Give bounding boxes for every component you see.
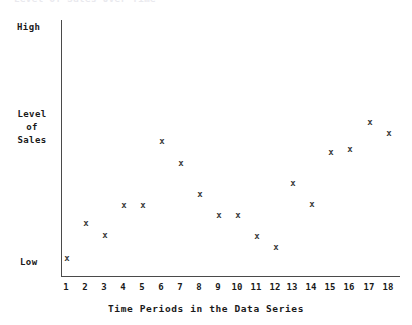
data-point-marker: x (347, 145, 352, 154)
data-point-marker: x (328, 148, 333, 157)
data-point-marker: x (102, 231, 107, 240)
x-axis-tick-label: 18 (383, 282, 394, 293)
x-axis-tick-label: 6 (158, 282, 163, 293)
x-axis-tick-label: 9 (215, 282, 220, 293)
x-axis-tick-label: 1 (63, 282, 68, 293)
x-axis-tick-label: 8 (196, 282, 201, 293)
y-axis-high-label: High (17, 21, 40, 33)
y-axis-low-label: Low (20, 256, 37, 268)
data-point-marker: x (121, 201, 126, 210)
data-point-marker: x (197, 190, 202, 199)
data-point-marker: x (140, 201, 145, 210)
plot-area: xxxxxxxxxxxxxxxxxx (61, 20, 400, 277)
y-axis-title-line-2: of (8, 121, 56, 134)
x-axis-tick-label: 15 (325, 282, 336, 293)
x-axis-tick-label: 16 (344, 282, 355, 293)
data-point-marker: x (273, 243, 278, 252)
y-axis-title: Level of Sales (8, 108, 56, 147)
data-point-marker: x (290, 179, 295, 188)
x-axis-tick-label: 3 (101, 282, 106, 293)
x-axis-tick-label: 13 (287, 282, 298, 293)
x-axis-tick-label: 10 (232, 282, 243, 293)
x-axis-tick-label: 17 (364, 282, 375, 293)
data-point-marker: x (83, 219, 88, 228)
data-point-marker: x (159, 137, 164, 146)
x-axis-tick-label: 12 (270, 282, 281, 293)
y-axis-title-line-1: Level (8, 108, 56, 121)
x-axis-title: Time Periods in the Data Series (0, 303, 412, 314)
x-axis-tick-label: 5 (139, 282, 144, 293)
x-axis-tick-label: 7 (177, 282, 182, 293)
x-axis-tick-label: 14 (306, 282, 317, 293)
data-point-marker: x (178, 159, 183, 168)
data-point-marker: x (386, 129, 391, 138)
data-point-marker: x (216, 211, 221, 220)
x-axis-tick-row: 123456789101112131415161718 (61, 282, 400, 294)
x-axis-tick-label: 2 (82, 282, 87, 293)
data-point-marker: x (64, 254, 69, 263)
x-axis-tick-label: 4 (120, 282, 125, 293)
x-axis-tick-label: 11 (251, 282, 262, 293)
y-axis-title-line-3: Sales (8, 134, 56, 147)
data-point-marker: x (235, 211, 240, 220)
data-point-marker: x (309, 200, 314, 209)
chart-title: Level of Sales Over Time (14, 0, 156, 2)
data-point-marker: x (367, 118, 372, 127)
data-point-marker: x (254, 232, 259, 241)
